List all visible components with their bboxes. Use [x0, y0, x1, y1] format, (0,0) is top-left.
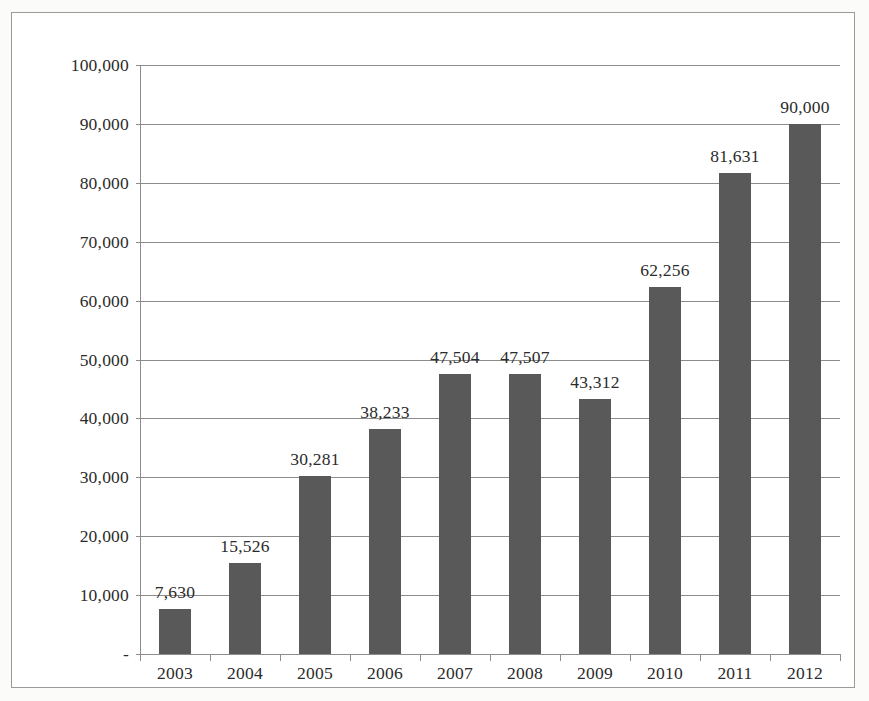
gridline — [140, 65, 840, 66]
bar-data-label: 38,233 — [360, 402, 409, 423]
y-tick-label: 100,000 — [71, 55, 129, 76]
bar[interactable] — [369, 429, 401, 654]
bar[interactable] — [579, 399, 611, 654]
y-tick-mark — [136, 477, 143, 478]
x-tick-mark — [280, 654, 281, 661]
x-tick-mark — [840, 654, 841, 661]
bar-data-label: 47,504 — [430, 347, 479, 368]
bar[interactable] — [789, 124, 821, 654]
y-tick-label: 70,000 — [80, 231, 129, 252]
x-axis-label: 2005 — [297, 663, 333, 684]
x-tick-mark — [770, 654, 771, 661]
x-axis-label: 2003 — [157, 663, 193, 684]
plot-area: -10,00020,00030,00040,00050,00060,00070,… — [140, 65, 840, 654]
x-tick-mark — [630, 654, 631, 661]
bar[interactable] — [649, 287, 681, 654]
bar-data-label: 43,312 — [570, 372, 619, 393]
y-tick-label: 80,000 — [80, 172, 129, 193]
bar-data-label: 47,507 — [500, 347, 549, 368]
bar[interactable] — [229, 563, 261, 654]
x-axis-label: 2009 — [577, 663, 613, 684]
y-tick-label: 40,000 — [80, 408, 129, 429]
bar-data-label: 81,631 — [710, 146, 759, 167]
x-axis-label: 2006 — [367, 663, 403, 684]
bar[interactable] — [509, 374, 541, 654]
x-tick-mark — [350, 654, 351, 661]
y-tick-mark — [136, 242, 143, 243]
y-tick-label: - — [123, 644, 129, 665]
x-axis-label: 2011 — [717, 663, 752, 684]
y-tick-mark — [136, 65, 143, 66]
y-tick-label: 50,000 — [80, 349, 129, 370]
bar-data-label: 7,630 — [155, 582, 195, 603]
bar[interactable] — [159, 609, 191, 654]
bar-data-label: 15,526 — [220, 536, 269, 557]
x-tick-mark — [420, 654, 421, 661]
bar[interactable] — [439, 374, 471, 654]
y-tick-mark — [136, 301, 143, 302]
x-tick-mark — [560, 654, 561, 661]
y-tick-mark — [136, 360, 143, 361]
y-tick-label: 90,000 — [80, 113, 129, 134]
gridline — [140, 124, 840, 125]
x-axis-label: 2010 — [647, 663, 683, 684]
x-axis-label: 2007 — [437, 663, 473, 684]
bar[interactable] — [719, 173, 751, 654]
bar-data-label: 62,256 — [640, 260, 689, 281]
y-tick-label: 30,000 — [80, 467, 129, 488]
bar-data-label: 90,000 — [780, 97, 829, 118]
x-tick-mark — [700, 654, 701, 661]
y-tick-mark — [136, 418, 143, 419]
y-tick-mark — [136, 536, 143, 537]
x-tick-mark — [140, 654, 141, 661]
y-tick-label: 60,000 — [80, 290, 129, 311]
x-axis-label: 2012 — [787, 663, 823, 684]
y-tick-label: 10,000 — [80, 585, 129, 606]
x-tick-mark — [490, 654, 491, 661]
bar[interactable] — [299, 476, 331, 654]
y-tick-mark — [136, 124, 143, 125]
x-axis-label: 2004 — [227, 663, 263, 684]
bar-data-label: 30,281 — [290, 449, 339, 470]
y-tick-mark — [136, 183, 143, 184]
y-tick-mark — [136, 595, 143, 596]
x-axis-label: 2008 — [507, 663, 543, 684]
y-tick-label: 20,000 — [80, 526, 129, 547]
x-tick-mark — [210, 654, 211, 661]
chart-frame: -10,00020,00030,00040,00050,00060,00070,… — [11, 12, 855, 688]
